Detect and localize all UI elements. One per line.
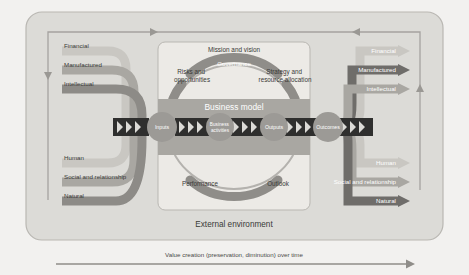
risks-and-opportunities-label: Risks and opportunities — [174, 68, 210, 84]
value-creation-diagram: Financial Manufactured Intellectual Huma… — [0, 0, 469, 275]
risks-line-1: Risks and — [177, 68, 205, 75]
capital-out-label-social: Social and relationship — [334, 178, 397, 185]
risks-line-2: opportunities — [174, 76, 210, 84]
chevrons-inputs-to-activities — [175, 118, 211, 136]
governance-label: Governance — [217, 60, 251, 67]
chevrons-activities-to-outputs — [229, 118, 265, 136]
capital-in-label-financial: Financial — [64, 42, 89, 49]
capital-in-label-intellectual: Intellectual — [64, 80, 94, 87]
activities-line-1: Business — [210, 122, 230, 127]
capital-in-label-human: Human — [64, 154, 85, 161]
capital-out-label-manufactured: Manufactured — [358, 66, 396, 73]
capital-in-label-natural: Natural — [64, 192, 84, 199]
capital-in-label-manufactured: Manufactured — [64, 61, 102, 68]
activities-line-2: activities — [211, 128, 230, 133]
business-model-label: Business model — [204, 102, 263, 112]
strategy-line-2: resource allocation — [259, 76, 312, 83]
strategy-line-1: Strategy and — [266, 68, 302, 76]
capital-in-label-social: Social and relationship — [64, 173, 127, 180]
performance-label: Performance — [182, 180, 219, 187]
outlook-label: Outlook — [267, 180, 290, 187]
capital-out-label-natural: Natural — [376, 197, 396, 204]
chain-node-business-activities[interactable] — [206, 113, 234, 141]
capital-out-label-financial: Financial — [371, 47, 396, 54]
capital-out-label-intellectual: Intellectual — [366, 85, 396, 92]
chain-label-outcomes: Outcomes — [316, 124, 340, 130]
chain-label-outputs: Outputs — [265, 124, 284, 130]
chain-label-inputs: Inputs — [155, 124, 170, 130]
mission-and-vision-label: Mission and vision — [208, 46, 261, 53]
footer-caption: Value creation (preservation, diminution… — [165, 251, 303, 258]
external-environment-label: External environment — [195, 220, 273, 229]
chevrons-pre-inputs — [113, 118, 149, 136]
chain-label-business-activities: Business activities — [210, 122, 230, 133]
capital-out-label-human: Human — [376, 159, 397, 166]
